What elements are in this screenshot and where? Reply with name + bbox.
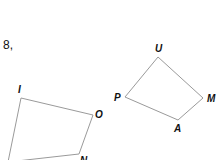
vertex-label-m: M xyxy=(207,93,216,104)
vertex-label-i: I xyxy=(18,84,21,95)
vertex-label-p: P xyxy=(114,92,121,103)
quadrilateral-umap-outline xyxy=(125,57,203,120)
vertex-label-u: U xyxy=(155,43,163,54)
vertex-label-n: N xyxy=(80,155,88,160)
vertex-label-a: A xyxy=(173,123,181,134)
geometry-diagram: 8, I O N U M A P xyxy=(0,0,221,160)
vertex-label-o: O xyxy=(95,109,103,120)
quadrilateral-umap: U M A P xyxy=(114,43,216,134)
quadrilateral-ion: I O N xyxy=(8,84,103,160)
quadrilateral-ion-outline xyxy=(8,98,93,160)
problem-number: 8, xyxy=(3,38,13,52)
